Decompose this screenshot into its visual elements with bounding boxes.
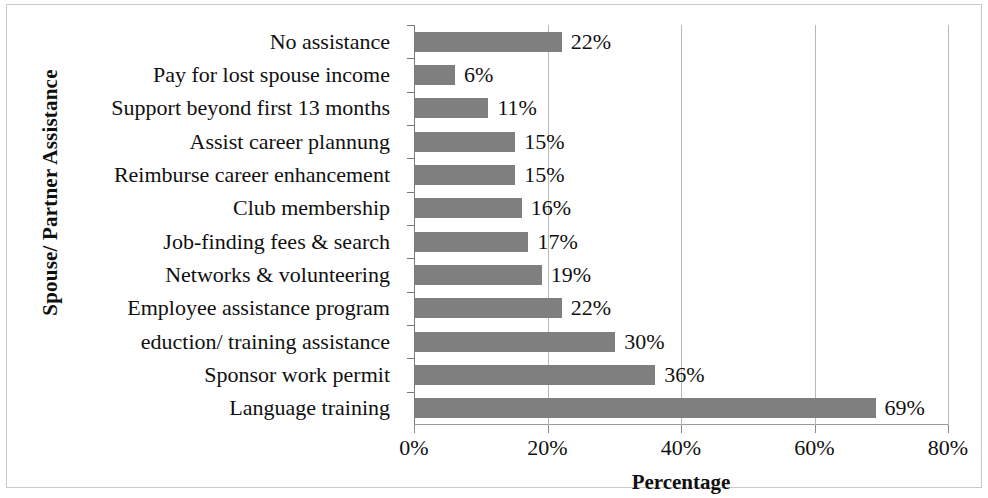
x-axis-tick-labels: 0%20%40%60%80% bbox=[414, 437, 948, 467]
bar-value-label: 17% bbox=[537, 231, 577, 253]
bar bbox=[415, 32, 562, 52]
bar-value-label: 16% bbox=[531, 197, 571, 219]
x-axis-tick bbox=[681, 425, 682, 433]
bar bbox=[415, 132, 515, 152]
category-label: Language training bbox=[229, 397, 390, 419]
category-label: Networks & volunteering bbox=[165, 264, 390, 286]
bar-value-label: 6% bbox=[464, 64, 493, 86]
bar-row: 30% bbox=[415, 325, 948, 358]
category-label: Club membership bbox=[233, 197, 390, 219]
bar-value-label: 30% bbox=[624, 331, 664, 353]
bar bbox=[415, 198, 522, 218]
x-axis-tick-label: 20% bbox=[527, 437, 567, 459]
bar bbox=[415, 398, 876, 418]
x-axis-tick-label: 80% bbox=[928, 437, 968, 459]
category-tick bbox=[407, 258, 414, 259]
bar-series: 22%6%11%15%15%16%17%19%22%30%36%69% bbox=[415, 25, 948, 425]
category-label: Assist career plannung bbox=[190, 131, 390, 153]
category-label: eduction/ training assistance bbox=[141, 331, 390, 353]
bar bbox=[415, 365, 655, 385]
category-label: Reimburse career enhancement bbox=[114, 164, 390, 186]
bar-row: 15% bbox=[415, 125, 948, 158]
category-label: No assistance bbox=[270, 31, 390, 53]
x-axis-tick bbox=[948, 425, 949, 433]
category-tick bbox=[407, 58, 414, 59]
bar-value-label: 22% bbox=[571, 297, 611, 319]
bar bbox=[415, 298, 562, 318]
bar-value-label: 11% bbox=[497, 97, 537, 119]
plot-area: 22%6%11%15%15%16%17%19%22%30%36%69% bbox=[414, 25, 948, 425]
category-label: Support beyond first 13 months bbox=[111, 97, 390, 119]
x-axis-tick bbox=[815, 425, 816, 433]
category-label: Job-finding fees & search bbox=[163, 231, 390, 253]
bar-value-label: 22% bbox=[571, 31, 611, 53]
category-tick bbox=[407, 125, 414, 126]
bar-row: 6% bbox=[415, 58, 948, 91]
bar-value-label: 15% bbox=[524, 164, 564, 186]
bar-row: 69% bbox=[415, 392, 948, 425]
bar-value-label: 15% bbox=[524, 131, 564, 153]
category-tick bbox=[407, 158, 414, 159]
bar-row: 17% bbox=[415, 225, 948, 258]
bar-value-label: 19% bbox=[551, 264, 591, 286]
category-tick bbox=[407, 192, 414, 193]
bar-chart-figure: Spouse/ Partner Assistance No assistance… bbox=[0, 0, 988, 498]
bar bbox=[415, 165, 515, 185]
category-tick bbox=[407, 25, 414, 26]
x-axis-tick-label: 0% bbox=[399, 437, 428, 459]
category-tick bbox=[407, 358, 414, 359]
category-tick bbox=[407, 92, 414, 93]
x-axis-tick-label: 60% bbox=[794, 437, 834, 459]
category-label: Pay for lost spouse income bbox=[153, 64, 390, 86]
category-tick bbox=[407, 392, 414, 393]
category-tick bbox=[407, 225, 414, 226]
bar-value-label: 69% bbox=[885, 397, 925, 419]
bar-row: 22% bbox=[415, 25, 948, 58]
bar-row: 11% bbox=[415, 92, 948, 125]
bar-row: 15% bbox=[415, 158, 948, 191]
bar bbox=[415, 332, 615, 352]
bar-row: 36% bbox=[415, 358, 948, 391]
category-tick bbox=[407, 325, 414, 326]
bar-row: 19% bbox=[415, 258, 948, 291]
gridline bbox=[948, 25, 949, 425]
x-axis-tick-label: 40% bbox=[661, 437, 701, 459]
bar bbox=[415, 232, 528, 252]
bar bbox=[415, 65, 455, 85]
bar-row: 16% bbox=[415, 192, 948, 225]
category-axis-labels: No assistancePay for lost spouse incomeS… bbox=[0, 25, 404, 425]
category-label: Sponsor work permit bbox=[204, 364, 390, 386]
category-tick bbox=[407, 292, 414, 293]
bar bbox=[415, 98, 488, 118]
x-axis-tick bbox=[548, 425, 549, 433]
bar bbox=[415, 265, 542, 285]
x-axis-tick bbox=[414, 425, 415, 433]
bar-value-label: 36% bbox=[664, 364, 704, 386]
category-label: Employee assistance program bbox=[127, 297, 390, 319]
x-axis-title: Percentage bbox=[414, 470, 948, 495]
bar-row: 22% bbox=[415, 292, 948, 325]
